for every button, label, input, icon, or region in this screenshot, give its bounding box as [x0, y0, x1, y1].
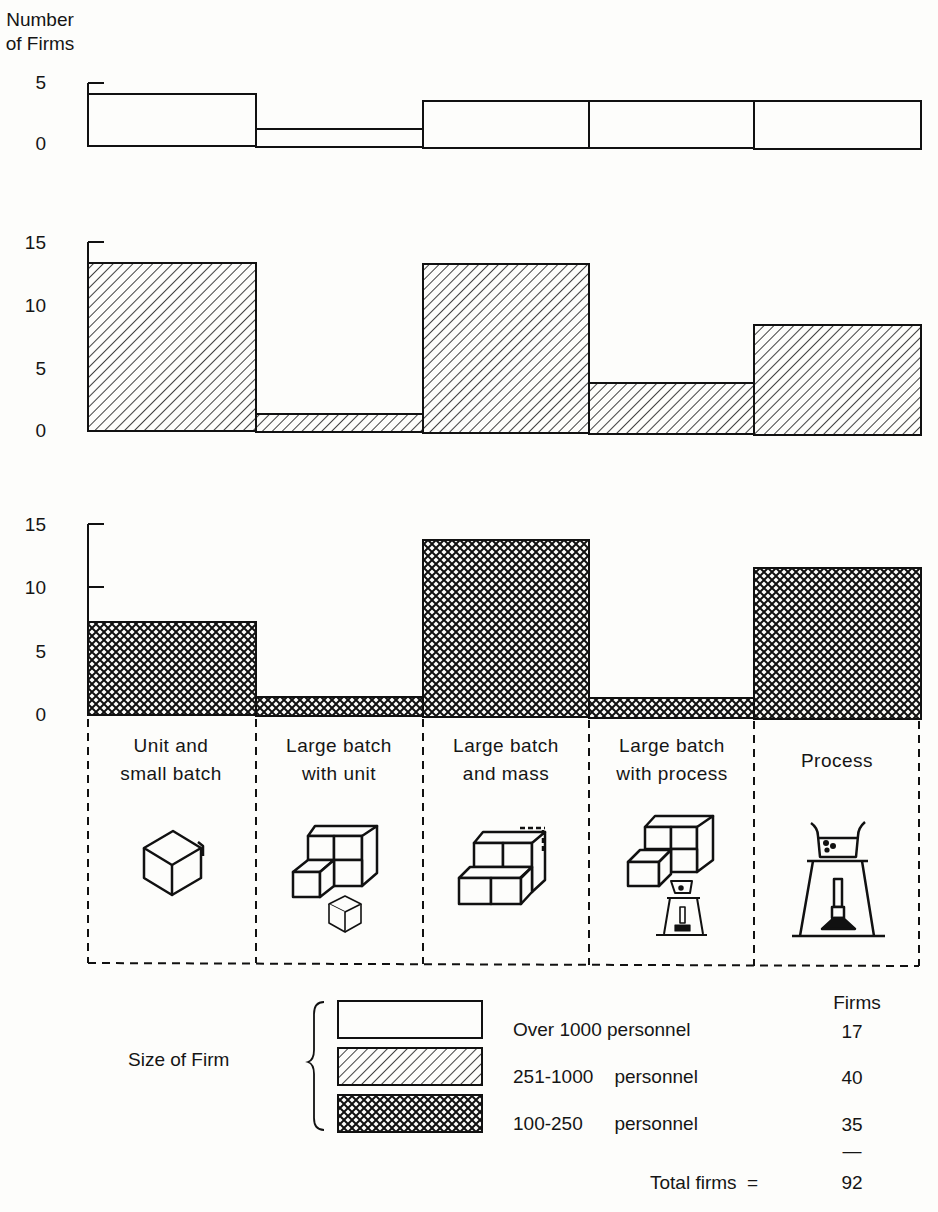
bar-bot-large-process — [589, 698, 754, 718]
legend-count-100-250: 35 — [827, 1114, 877, 1136]
legend-swatches — [338, 1001, 482, 1132]
bar-bot-unit — [88, 622, 256, 715]
category-label-line2: small batch — [88, 760, 254, 788]
cube-stack-with-burner-icon — [628, 816, 713, 935]
category-label-line2: and mass — [423, 760, 589, 788]
category-label-line2: with unit — [256, 760, 422, 788]
bar-mid-large-unit — [256, 414, 423, 432]
legend-label-over-1000: Over 1000 personnel — [513, 1019, 690, 1041]
legend-total-label: Total firms = — [650, 1172, 758, 1194]
legend-count-over-1000: 17 — [827, 1021, 877, 1043]
legend-count-251-1000: 40 — [827, 1067, 877, 1089]
legend-swatch-100-250 — [338, 1095, 482, 1132]
legend-title: Size of Firm — [128, 1049, 229, 1071]
legend-swatch-251-1000 — [338, 1048, 482, 1085]
panel-251-1000 — [88, 242, 921, 435]
category-label-line1: Unit and — [88, 732, 254, 760]
bar-over1000-large-mass — [423, 101, 589, 148]
legend-column-header: Firms — [832, 992, 882, 1014]
category-label-line2: with process — [589, 760, 755, 788]
bunsen-burner-icon — [792, 822, 885, 936]
category-label-large-batch-unit: Large batch with unit — [256, 732, 422, 788]
bar-mid-large-process — [589, 383, 754, 434]
bar-over1000-unit — [88, 94, 256, 146]
legend-swatch-over-1000 — [338, 1001, 482, 1038]
panel-100-250 — [88, 524, 921, 719]
single-cube-icon — [144, 831, 203, 895]
cube-stack-icon — [459, 828, 545, 904]
legend-label-251-1000: 251-1000 personnel — [513, 1066, 698, 1088]
category-label-process: Process — [754, 747, 920, 775]
bar-over1000-large-unit — [256, 129, 423, 147]
category-label-unit-small-batch: Unit and small batch — [88, 732, 254, 788]
category-label-line1: Process — [754, 747, 920, 775]
bar-bot-large-unit — [256, 697, 423, 716]
bar-over1000-process — [754, 101, 921, 149]
panel-over-1000 — [88, 83, 921, 149]
category-label-large-batch-process: Large batch with process — [589, 732, 755, 788]
category-label-line1: Large batch — [589, 732, 755, 760]
bar-bot-large-mass — [423, 540, 589, 717]
category-label-line1: Large batch — [423, 732, 589, 760]
bar-mid-unit — [88, 263, 256, 431]
bar-mid-process — [754, 325, 921, 435]
bar-over1000-large-process — [589, 101, 754, 148]
legend-brace — [308, 1002, 324, 1130]
legend-sum-rule: — — [827, 1140, 877, 1162]
bar-bot-process — [754, 568, 921, 719]
legend-total-value: 92 — [827, 1172, 877, 1194]
category-label-line1: Large batch — [256, 732, 422, 760]
bar-mid-large-mass — [423, 264, 589, 433]
legend-label-100-250: 100-250 personnel — [513, 1113, 698, 1135]
chart-canvas — [0, 0, 938, 1212]
cube-stack-with-small-cube-icon — [293, 826, 377, 932]
category-label-large-batch-mass: Large batch and mass — [423, 732, 589, 788]
